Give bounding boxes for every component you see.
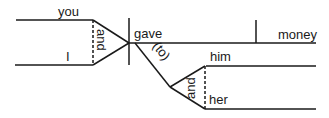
indirect-object-her: her bbox=[209, 92, 228, 107]
subject-conjunction: and bbox=[94, 29, 109, 51]
subject-you: you bbox=[58, 4, 79, 19]
indirect-object-him: him bbox=[210, 49, 231, 64]
sentence-diagram: you I and gave money (to) him her and bbox=[0, 0, 329, 118]
verb: gave bbox=[134, 26, 162, 41]
object-conjunction: and bbox=[183, 77, 198, 99]
subject-i: I bbox=[66, 49, 70, 64]
direct-object: money bbox=[278, 27, 318, 42]
